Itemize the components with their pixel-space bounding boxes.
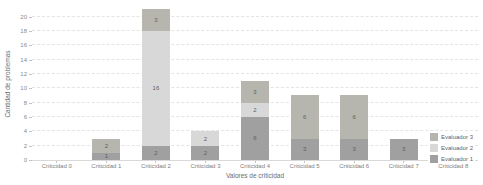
- bar-segment-evaluador-1: 3: [291, 139, 319, 161]
- x-tick-label: Criticidad 7: [389, 163, 419, 170]
- legend-label: Evaluador 2: [441, 144, 473, 152]
- bars-layer: 1221632262336363: [32, 8, 478, 160]
- x-tick-label: Criticidad 1: [91, 163, 121, 170]
- legend-label: Evaluador 1: [441, 155, 473, 163]
- segment-value-label: 3: [390, 146, 418, 152]
- y-tick-mark-16: [29, 45, 32, 46]
- segment-value-label: 6: [340, 114, 368, 120]
- legend-item-evaluador-3: Evaluador 3: [430, 133, 473, 141]
- legend-item-evaluador-2: Evaluador 2: [430, 144, 473, 152]
- bar-criticidad-0: [32, 8, 82, 160]
- y-tick-label-10: 10: [0, 84, 27, 92]
- bar-segment-evaluador-3: 6: [291, 95, 319, 138]
- x-tick-label: Criticidad 6: [339, 163, 369, 170]
- bar-segment-evaluador-2: 16: [142, 31, 170, 146]
- x-tick-label: Criticidad 2: [141, 163, 171, 170]
- segment-value-label: 2: [92, 143, 120, 149]
- segment-value-label: 3: [142, 17, 170, 23]
- y-tick-mark-20: [29, 17, 32, 18]
- bar-segment-evaluador-3: 6: [340, 95, 368, 138]
- legend-label: Evaluador 3: [441, 133, 473, 141]
- bar-criticidad-1: 12: [82, 8, 132, 160]
- bar-segment-evaluador-3: 3: [142, 9, 170, 31]
- bar-criticidad-6: 36: [329, 8, 379, 160]
- segment-value-label: 1: [92, 153, 120, 159]
- x-tick-label: Criticidad 3: [190, 163, 220, 170]
- segment-value-label: 2: [241, 107, 269, 113]
- bar-criticidad-2: 2163: [131, 8, 181, 160]
- x-tick-label: Criticidad 4: [240, 163, 270, 170]
- bar-segment-evaluador-1: 6: [241, 117, 269, 160]
- segment-value-label: 3: [340, 146, 368, 152]
- y-tick-mark-10: [29, 88, 32, 89]
- bar-segment-evaluador-1: 1: [92, 153, 120, 160]
- y-tick-label-6: 6: [0, 113, 27, 121]
- y-tick-label-12: 12: [0, 70, 27, 78]
- bar-criticidad-3: 22: [181, 8, 231, 160]
- y-tick-label-2: 2: [0, 142, 27, 150]
- x-tick-label: Criticidad 8: [438, 163, 468, 170]
- stacked-bar-chart: Cantidad de problemas 1221632262336363 0…: [0, 0, 483, 185]
- y-tick-label-16: 16: [0, 41, 27, 49]
- legend-swatch: [430, 133, 438, 141]
- bar-segment-evaluador-1: 2: [191, 146, 219, 160]
- y-tick-mark-12: [29, 74, 32, 75]
- bar-segment-evaluador-1: 2: [142, 146, 170, 160]
- y-tick-mark-18: [29, 31, 32, 32]
- y-tick-label-14: 14: [0, 56, 27, 64]
- bar-segment-evaluador-3: 2: [92, 139, 120, 153]
- bar-segment-evaluador-1: 3: [340, 139, 368, 161]
- y-tick-label-4: 4: [0, 127, 27, 135]
- segment-value-label: 2: [191, 150, 219, 156]
- segment-value-label: 6: [241, 135, 269, 141]
- bar-segment-evaluador-2: 2: [241, 103, 269, 117]
- bar-criticidad-5: 36: [280, 8, 330, 160]
- segment-value-label: 2: [191, 136, 219, 142]
- x-axis-labels: Criticidad 0Criticidad 1Criticidad 2Crit…: [32, 161, 478, 170]
- x-label-cell: Criticidad 5: [280, 161, 330, 170]
- x-tick-label: Criticidad 0: [42, 163, 72, 170]
- legend-swatch: [430, 144, 438, 152]
- bar-criticidad-4: 623: [230, 8, 280, 160]
- segment-value-label: 16: [142, 85, 170, 91]
- y-tick-label-8: 8: [0, 99, 27, 107]
- y-tick-mark-8: [29, 103, 32, 104]
- y-tick-label-0: 0: [0, 156, 27, 164]
- x-label-cell: Criticidad 0: [32, 161, 82, 170]
- legend-item-evaluador-1: Evaluador 1: [430, 155, 473, 163]
- x-axis-title: Valores de criticidad: [32, 172, 478, 179]
- y-tick-label-20: 20: [0, 13, 27, 21]
- segment-value-label: 6: [291, 114, 319, 120]
- x-label-cell: Criticidad 7: [379, 161, 429, 170]
- bar-segment-evaluador-2: 2: [191, 131, 219, 145]
- legend-swatch: [430, 155, 438, 163]
- segment-value-label: 3: [291, 146, 319, 152]
- x-label-cell: Criticidad 2: [131, 161, 181, 170]
- y-tick-label-18: 18: [0, 27, 27, 35]
- x-label-cell: Criticidad 6: [329, 161, 379, 170]
- y-tick-mark-4: [29, 131, 32, 132]
- segment-value-label: 3: [241, 89, 269, 95]
- x-label-cell: Criticidad 3: [181, 161, 231, 170]
- legend: Evaluador 3Evaluador 2Evaluador 1: [428, 132, 475, 164]
- segment-value-label: 2: [142, 150, 170, 156]
- y-tick-mark-14: [29, 60, 32, 61]
- x-label-cell: Criticidad 1: [82, 161, 132, 170]
- x-tick-label: Criticidad 5: [290, 163, 320, 170]
- bar-criticidad-7: 3: [379, 8, 429, 160]
- plot-area: 1221632262336363: [32, 8, 478, 161]
- bar-segment-evaluador-3: 3: [241, 81, 269, 103]
- y-tick-mark-6: [29, 117, 32, 118]
- bar-segment-evaluador-1: 3: [390, 139, 418, 161]
- x-label-cell: Criticidad 4: [230, 161, 280, 170]
- y-tick-mark-2: [29, 146, 32, 147]
